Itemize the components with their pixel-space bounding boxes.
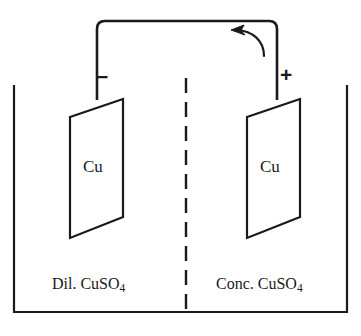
left-solution-label-subscript: 4 — [120, 282, 126, 294]
left-terminal-sign: − — [96, 66, 108, 87]
right-electrode-label: Cu — [260, 158, 280, 175]
right-solution-label-text: Conc. CuSO — [216, 275, 297, 292]
right-solution-label-subscript: 4 — [297, 282, 303, 294]
left-solution-label: Dil. CuSO4 — [52, 276, 125, 295]
left-solution-label-text: Dil. CuSO — [52, 275, 120, 292]
concentration-cell-diagram: − + Cu Cu Dil. CuSO4 Conc. CuSO4 — [0, 0, 361, 336]
left-electrode-label: Cu — [83, 158, 103, 175]
right-solution-label: Conc. CuSO4 — [216, 276, 303, 295]
right-terminal-sign: + — [280, 64, 292, 85]
